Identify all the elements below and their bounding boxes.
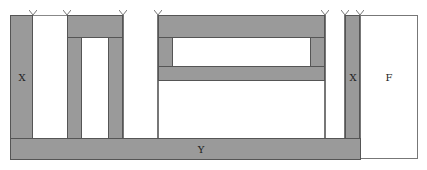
pi-block-top-bar <box>67 15 123 38</box>
ring-block-side-right <box>310 37 325 67</box>
block-y <box>10 138 361 160</box>
label-y: Y <box>198 144 205 155</box>
white-gap-right <box>325 15 345 139</box>
label-f: F <box>386 72 393 83</box>
white-gap-middle <box>123 15 158 139</box>
corner-marker-icon <box>341 10 349 16</box>
pi-block-leg-left <box>67 37 82 139</box>
block-f <box>360 15 418 159</box>
corner-marker-icon <box>29 10 37 16</box>
diagram-canvas: X X Y F <box>0 0 427 170</box>
label-x-right: X <box>349 72 356 83</box>
ring-block-top <box>158 15 325 38</box>
white-region-lower-middle <box>158 80 325 139</box>
pi-block-leg-right <box>108 37 123 139</box>
corner-marker-icon <box>356 10 364 16</box>
label-x-left: X <box>18 72 25 83</box>
corner-marker-icon <box>321 10 329 16</box>
ring-block-side-left <box>158 37 173 67</box>
ring-block-bottom <box>158 66 325 81</box>
corner-marker-icon <box>63 10 71 16</box>
corner-marker-icon <box>119 10 127 16</box>
corner-marker-icon <box>154 10 162 16</box>
